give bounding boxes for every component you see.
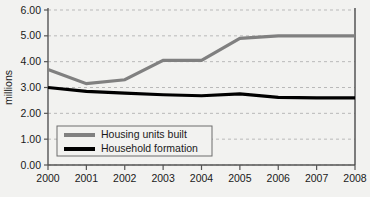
- x-tick-label-2000: 2000: [36, 172, 60, 184]
- x-tick-label-2005: 2005: [228, 172, 252, 184]
- x-axis-ticks: 200020012002200320042005200620072008: [36, 165, 367, 184]
- y-tick-label-5.00: 5.00: [21, 29, 42, 41]
- chart-canvas: 0.001.002.003.004.005.006.00 20002001200…: [0, 0, 370, 197]
- x-tick-label-2006: 2006: [267, 172, 291, 184]
- y-tick-label-3.00: 3.00: [21, 81, 42, 93]
- y-axis-ticks: 0.001.002.003.004.005.006.00: [21, 4, 48, 171]
- series-line-housing-units-built: [48, 36, 355, 84]
- data-series: [48, 36, 355, 98]
- legend-label-0: Housing units built: [101, 128, 187, 140]
- line-chart: 0.001.002.003.004.005.006.00 20002001200…: [0, 0, 370, 197]
- x-tick-label-2008: 2008: [343, 172, 367, 184]
- y-tick-label-1.00: 1.00: [21, 133, 42, 145]
- y-axis-title: millions: [2, 70, 14, 105]
- y-tick-label-6.00: 6.00: [21, 4, 42, 16]
- x-tick-label-2004: 2004: [190, 172, 214, 184]
- x-tick-label-2001: 2001: [75, 172, 99, 184]
- y-tick-label-2.00: 2.00: [21, 107, 42, 119]
- chart-legend: Housing units builtHousehold formation: [57, 126, 212, 156]
- y-tick-label-0.00: 0.00: [21, 159, 42, 171]
- x-tick-label-2007: 2007: [305, 172, 329, 184]
- x-tick-label-2003: 2003: [151, 172, 175, 184]
- y-tick-label-4.00: 4.00: [21, 55, 42, 67]
- legend-label-1: Household formation: [101, 142, 198, 154]
- x-tick-label-2002: 2002: [113, 172, 137, 184]
- series-line-household-formation: [48, 88, 355, 98]
